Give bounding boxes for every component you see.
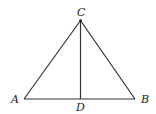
triangle-diagram: C A B D [0, 0, 156, 114]
segment-ac [24, 21, 81, 100]
label-d: D [75, 101, 85, 114]
label-c: C [77, 6, 86, 19]
label-b: B [140, 93, 149, 106]
point-c-dot [79, 19, 81, 21]
segment-bc [81, 21, 136, 100]
label-a: A [10, 93, 19, 106]
